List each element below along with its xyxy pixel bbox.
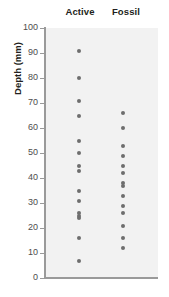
y-tick-label: 0 — [10, 272, 38, 282]
data-point — [121, 204, 125, 208]
y-tick-mark — [40, 78, 45, 79]
x-axis-line — [44, 277, 158, 279]
data-point — [121, 111, 125, 115]
data-point — [77, 99, 81, 103]
y-tick-label: 90 — [10, 47, 38, 57]
y-tick-mark — [40, 228, 45, 229]
y-tick-label: 80 — [10, 72, 38, 82]
y-tick-label: 20 — [10, 222, 38, 232]
data-point — [77, 151, 81, 155]
data-point — [121, 126, 125, 130]
data-point — [121, 211, 125, 215]
dot-plot-figure: Active Fossil Depth (mm) 010203040506070… — [0, 0, 169, 297]
y-tick-mark — [40, 253, 45, 254]
y-tick-mark — [40, 53, 45, 54]
data-point — [77, 189, 81, 193]
data-point — [121, 184, 125, 188]
data-point — [77, 49, 81, 53]
data-point — [121, 154, 125, 158]
y-tick-mark — [40, 153, 45, 154]
y-tick-mark — [40, 203, 45, 204]
data-point — [77, 169, 81, 173]
y-tick-label: 70 — [10, 97, 38, 107]
data-point — [121, 224, 125, 228]
y-tick-label: 30 — [10, 197, 38, 207]
data-point — [121, 144, 125, 148]
data-point — [77, 76, 81, 80]
plot-area — [46, 28, 158, 278]
column-header-fossil: Fossil — [98, 6, 154, 17]
y-tick-label: 50 — [10, 147, 38, 157]
data-point — [77, 216, 81, 220]
data-point — [77, 199, 81, 203]
y-tick-mark — [40, 278, 45, 279]
y-tick-label: 40 — [10, 172, 38, 182]
data-point — [121, 194, 125, 198]
data-point — [121, 246, 125, 250]
y-tick-mark — [40, 128, 45, 129]
data-point — [77, 164, 81, 168]
y-tick-label: 100 — [10, 22, 38, 32]
y-tick-mark — [40, 103, 45, 104]
data-point — [77, 114, 81, 118]
data-point — [121, 171, 125, 175]
data-point — [121, 164, 125, 168]
y-tick-label: 60 — [10, 122, 38, 132]
y-tick-mark — [40, 178, 45, 179]
y-tick-mark — [40, 28, 45, 29]
data-point — [77, 236, 81, 240]
data-point — [77, 139, 81, 143]
y-tick-label: 10 — [10, 247, 38, 257]
data-point — [121, 236, 125, 240]
data-point — [77, 259, 81, 263]
